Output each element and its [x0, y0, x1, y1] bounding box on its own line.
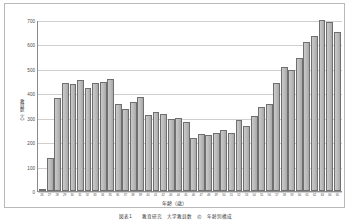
figure-caption: 図表1 教育研究 大学教員数 の 年齢別構成: [0, 213, 351, 219]
bar: [77, 80, 84, 191]
bar: [62, 83, 69, 191]
bar: [92, 83, 99, 191]
y-axis-tick-label: 200: [27, 141, 35, 146]
x-axis-tick-label: 37: [121, 193, 129, 198]
bar: [303, 42, 310, 192]
x-axis-tick-label: 52: [235, 193, 243, 198]
y-axis-title: 教員数（人）: [14, 88, 24, 134]
x-axis-tick-label: 54: [250, 193, 258, 198]
x-axis-tick-label: 34: [99, 193, 107, 198]
bar: [288, 70, 295, 191]
x-axis-tick-label: 43: [167, 193, 175, 198]
bar-series: [38, 21, 342, 191]
bar: [130, 102, 137, 191]
bar: [273, 83, 280, 191]
x-axis-tick-label: 36: [114, 193, 122, 198]
x-axis-tick-label: 31: [76, 193, 84, 198]
bar: [175, 118, 182, 191]
y-axis-tick-label: 100: [27, 165, 35, 170]
bar: [220, 130, 227, 191]
bar: [228, 133, 235, 191]
bar: [153, 112, 160, 191]
y-axis-tick-label: 400: [27, 92, 35, 97]
chart-frame: 教員数（人） 0100200300400500600700 2627282930…: [4, 3, 345, 208]
x-axis-tick-label: 38: [129, 193, 137, 198]
x-axis-tick-label: 29: [61, 193, 69, 198]
bar: [85, 88, 92, 191]
bar: [213, 133, 220, 191]
bar: [258, 107, 265, 191]
x-axis-tick-label: 56: [265, 193, 273, 198]
x-axis-tick-label: 47: [197, 193, 205, 198]
x-axis-tick-label: 44: [174, 193, 182, 198]
x-axis-tick-label: 53: [243, 193, 251, 198]
y-axis-tick-label: 700: [27, 19, 35, 24]
x-axis-tick-label: 58: [281, 193, 289, 198]
x-axis-tick-label: 30: [68, 193, 76, 198]
bar: [334, 32, 341, 191]
bar: [236, 120, 243, 191]
bar: [122, 109, 129, 191]
x-axis-tick-label: 26: [38, 193, 46, 198]
bar: [107, 79, 114, 191]
x-axis-tick-label: 46: [190, 193, 198, 198]
x-axis-tick-label: 39: [137, 193, 145, 198]
x-axis-tick-label: 40: [144, 193, 152, 198]
x-axis-tick-label: 62: [311, 193, 319, 198]
y-axis-tick-label: 600: [27, 43, 35, 48]
bar: [326, 22, 333, 191]
x-axis-tick-label: 50: [220, 193, 228, 198]
y-axis-tick-label: 500: [27, 67, 35, 72]
x-axis-tick-labels: 2627282930313233343536373839404142434445…: [37, 193, 342, 198]
x-axis-tick-label: 27: [46, 193, 54, 198]
bar: [311, 36, 318, 191]
x-axis-tick-label: 65: [334, 193, 342, 198]
bar: [190, 138, 197, 191]
x-axis-tick-label: 41: [152, 193, 160, 198]
bar: [115, 104, 122, 191]
x-axis-tick-label: 32: [83, 193, 91, 198]
y-axis-tick-label: 0: [32, 190, 35, 195]
x-axis-tick-label: 49: [212, 193, 220, 198]
bar: [39, 189, 46, 191]
x-axis-tick-label: 48: [205, 193, 213, 198]
x-axis-tick-label: 63: [318, 193, 326, 198]
plot-area: 0100200300400500600700: [37, 21, 342, 192]
bar: [137, 97, 144, 191]
x-axis-tick-label: 51: [227, 193, 235, 198]
bar: [281, 67, 288, 191]
x-axis-tick-label: 57: [273, 193, 281, 198]
bar: [296, 58, 303, 191]
x-axis-tick-label: 45: [182, 193, 190, 198]
bar: [205, 135, 212, 191]
x-axis-tick-label: 61: [303, 193, 311, 198]
bar: [198, 134, 205, 191]
x-axis-tick-label: 33: [91, 193, 99, 198]
bar: [54, 98, 61, 191]
bar: [243, 126, 250, 191]
x-axis-tick-label: 35: [106, 193, 114, 198]
x-axis-title: 年齢（歳）: [5, 199, 344, 206]
bar: [266, 104, 273, 191]
y-axis-tick-label: 300: [27, 116, 35, 121]
bar: [100, 82, 107, 191]
chart-screenshot: 教員数（人） 0100200300400500600700 2627282930…: [0, 0, 351, 224]
x-axis-tick-label: 59: [288, 193, 296, 198]
x-axis-tick-label: 42: [159, 193, 167, 198]
bar: [160, 114, 167, 191]
bar: [183, 122, 190, 191]
bar: [251, 116, 258, 191]
bar: [168, 119, 175, 191]
bar: [319, 20, 326, 191]
x-axis-tick-label: 55: [258, 193, 266, 198]
x-axis-tick-label: 60: [296, 193, 304, 198]
bar: [47, 158, 54, 191]
bar: [145, 115, 152, 191]
x-axis-tick-label: 64: [326, 193, 334, 198]
x-axis-tick-label: 28: [53, 193, 61, 198]
bar: [70, 84, 77, 191]
